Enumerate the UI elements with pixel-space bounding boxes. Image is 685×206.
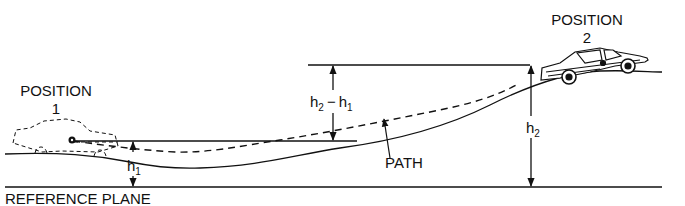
path-line	[73, 83, 520, 152]
path-leader-arrow	[384, 119, 390, 158]
position2-number: 2	[583, 29, 591, 46]
car-position2-icon	[541, 48, 648, 84]
path-label: PATH	[385, 154, 423, 171]
position2-title: POSITION	[551, 11, 623, 28]
h2-label: h2	[526, 119, 540, 139]
h2-minus-h1-label: h2−h1	[310, 93, 353, 113]
h1-label: h1	[127, 157, 141, 177]
reference-plane-label: REFERENCE PLANE	[5, 190, 151, 206]
position1-number: 1	[52, 100, 60, 117]
energy-diagram: POSITION 1 POSITION 2 PATH REFERENCE PLA…	[0, 0, 685, 206]
position1-title: POSITION	[20, 82, 92, 99]
car-position1-icon	[13, 119, 118, 156]
